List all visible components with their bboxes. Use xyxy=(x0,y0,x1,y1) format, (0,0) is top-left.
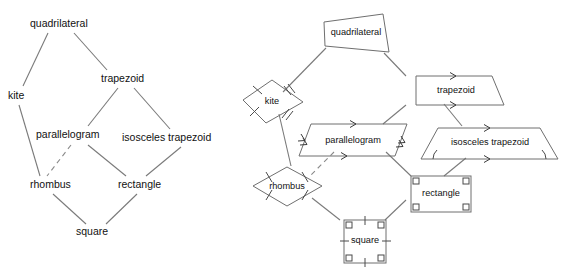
edge-trapezoid-parallelogram xyxy=(383,105,406,124)
shape-node-rectangle[interactable]: rectangle xyxy=(411,176,471,212)
shape-node-isosceles-trapezoid[interactable]: isosceles trapezoid xyxy=(421,125,558,163)
shape-label-kite: kite xyxy=(265,96,279,106)
shape-node-quadrilateral[interactable]: quadrilateral xyxy=(324,14,389,52)
shape-label-rectangle: rectangle xyxy=(422,188,460,198)
diagram-canvas: quadrilateral kite trapezoid parallelogr… xyxy=(0,0,563,268)
shape-label-quadrilateral: quadrilateral xyxy=(331,27,382,37)
shape-node-kite[interactable]: kite xyxy=(243,80,303,123)
shape-label-square: square xyxy=(351,235,379,245)
edge-quadrilateral-trapezoid xyxy=(384,53,406,76)
edge-rhombus-square xyxy=(312,198,340,220)
edge-kite-rhombus xyxy=(279,114,291,166)
shape-node-rhombus[interactable]: rhombus xyxy=(253,167,322,206)
shape-label-trapezoid: trapezoid xyxy=(437,85,475,95)
edge-isosceles-trapezoid-rectangle xyxy=(444,158,466,176)
kite-double-tick-marks xyxy=(282,84,295,120)
isosceles-trapezoid-base-angle-arcs xyxy=(433,150,546,159)
edge-rectangle-square xyxy=(385,200,406,220)
shape-label-parallelogram: parallelogram xyxy=(325,135,381,145)
shape-label-isosceles-trapezoid: isosceles trapezoid xyxy=(451,137,529,147)
shape-node-trapezoid[interactable]: trapezoid xyxy=(416,73,504,109)
right-quadrilateral-hierarchy-diagram: quadrilateral kite xyxy=(0,0,563,268)
shape-label-rhombus: rhombus xyxy=(269,181,305,191)
shape-node-square[interactable]: square xyxy=(340,216,391,267)
shape-node-parallelogram[interactable]: parallelogram xyxy=(298,121,407,160)
